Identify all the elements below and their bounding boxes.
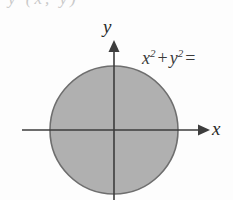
equation-exponent-x: 2 [150, 47, 156, 59]
y-axis-label: y [103, 17, 111, 36]
circle-equation-label: x2+y2= [142, 48, 197, 67]
x-axis-label: x [212, 119, 220, 138]
equation-equals: = [183, 48, 197, 68]
equation-operator: + [156, 48, 170, 68]
equation-base-y: y [170, 48, 178, 68]
y-axis-arrowhead [109, 40, 120, 52]
x-axis-arrowhead [198, 125, 210, 136]
figure-canvas [0, 0, 233, 200]
math-figure: y (x, y) y x x2+y2= [0, 0, 233, 200]
equation-base-x: x [142, 48, 150, 68]
